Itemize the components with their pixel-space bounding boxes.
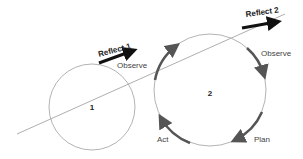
reflect-2-arrow bbox=[242, 22, 276, 28]
plan-label: Plan bbox=[254, 135, 270, 144]
observe-right-label: Observe bbox=[261, 49, 292, 58]
act-label: Act bbox=[157, 135, 169, 144]
reflect-2-label: Reflect 2 bbox=[245, 5, 280, 19]
reflection-cycle-diagram: 1 2 Reflect 1 Reflect 2 Observe Observe … bbox=[0, 0, 303, 159]
circle-2-label: 2 bbox=[208, 89, 213, 98]
circle-1-label: 1 bbox=[90, 103, 95, 112]
tangent-line bbox=[17, 14, 285, 134]
observe-left-label: Observe bbox=[117, 61, 148, 70]
observe-left-arrow bbox=[155, 46, 176, 80]
